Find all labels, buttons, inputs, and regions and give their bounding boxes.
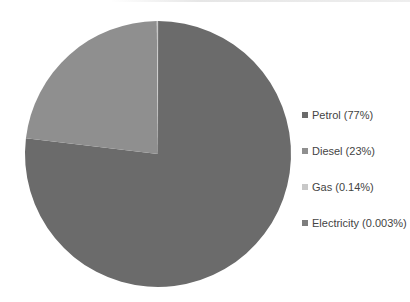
legend-label-petrol: Petrol (77%) (312, 109, 373, 121)
legend-item-petrol: Petrol (77%) (302, 108, 407, 121)
legend-label-diesel: Diesel (23%) (312, 145, 375, 157)
legend: Petrol (77%) Diesel (23%) Gas (0.14%) El… (302, 108, 407, 252)
pie-chart (0, 0, 300, 302)
legend-swatch-petrol (302, 112, 308, 118)
pie-slice-diesel (26, 21, 158, 154)
legend-item-electricity: Electricity (0.003%) (302, 216, 407, 229)
legend-swatch-diesel (302, 148, 308, 154)
legend-label-gas: Gas (0.14%) (312, 181, 374, 193)
legend-swatch-electricity (302, 220, 308, 226)
legend-swatch-gas (302, 184, 308, 190)
legend-item-diesel: Diesel (23%) (302, 144, 407, 157)
legend-label-electricity: Electricity (0.003%) (312, 217, 407, 229)
legend-item-gas: Gas (0.14%) (302, 180, 407, 193)
